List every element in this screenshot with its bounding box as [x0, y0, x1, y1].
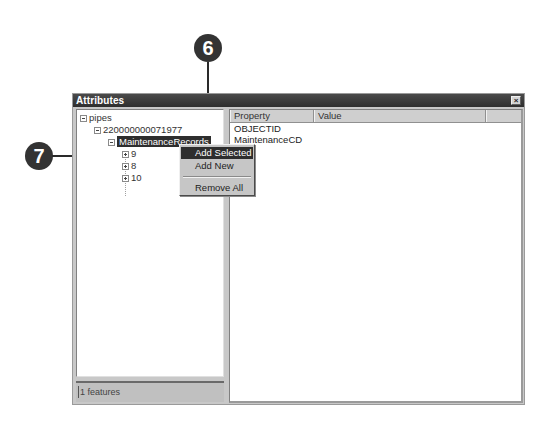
column-header-value[interactable]: Value	[314, 110, 486, 122]
tree-node-label: 10	[131, 172, 142, 183]
close-button[interactable]: ×	[511, 96, 521, 105]
menu-item-add-selected[interactable]: Add Selected	[181, 147, 253, 159]
close-icon: ×	[514, 96, 519, 105]
attribute-grid[interactable]: Property Value OBJECTID MaintenanceCD	[229, 109, 523, 403]
tree-node-feature-id[interactable]: 220000000071977	[94, 124, 182, 135]
callout-6: 6	[194, 34, 222, 62]
menu-item-remove-all[interactable]: Remove All	[181, 182, 253, 194]
column-header-property[interactable]: Property	[230, 110, 314, 122]
window-title: Attributes	[76, 94, 124, 107]
grid-header: Property Value	[230, 110, 521, 123]
tree-node-label: 9	[131, 148, 136, 159]
property-cell: OBJECTID	[234, 123, 281, 134]
tree-node-8[interactable]: 8	[122, 160, 136, 171]
collapse-icon[interactable]	[108, 139, 115, 146]
status-bar: 1 features	[76, 381, 224, 402]
context-menu: Add Selected Add New Remove All	[179, 144, 255, 196]
tree-node-label: 8	[131, 160, 136, 171]
expand-icon[interactable]	[122, 163, 129, 170]
expand-icon[interactable]	[122, 151, 129, 158]
tree-node-pipes[interactable]: pipes	[80, 112, 112, 123]
feature-count: 1 features	[78, 386, 120, 398]
collapse-icon[interactable]	[94, 127, 101, 134]
column-header-filler	[486, 110, 521, 122]
title-bar[interactable]: Attributes ×	[73, 94, 524, 107]
tree-node-10[interactable]: 10	[122, 172, 142, 183]
table-row[interactable]: OBJECTID	[230, 123, 302, 134]
callout-7: 7	[25, 142, 53, 170]
attributes-window: Attributes × pipes 220000000071977 Maint…	[72, 93, 525, 405]
expand-icon[interactable]	[122, 175, 129, 182]
grid-rows: OBJECTID MaintenanceCD	[230, 123, 302, 145]
collapse-icon[interactable]	[80, 115, 87, 122]
tree-node-9[interactable]: 9	[122, 148, 136, 159]
menu-separator	[183, 176, 251, 178]
tree-node-label: 220000000071977	[103, 124, 182, 135]
tree-node-label: pipes	[89, 112, 112, 123]
menu-item-add-new[interactable]: Add New	[181, 160, 253, 172]
